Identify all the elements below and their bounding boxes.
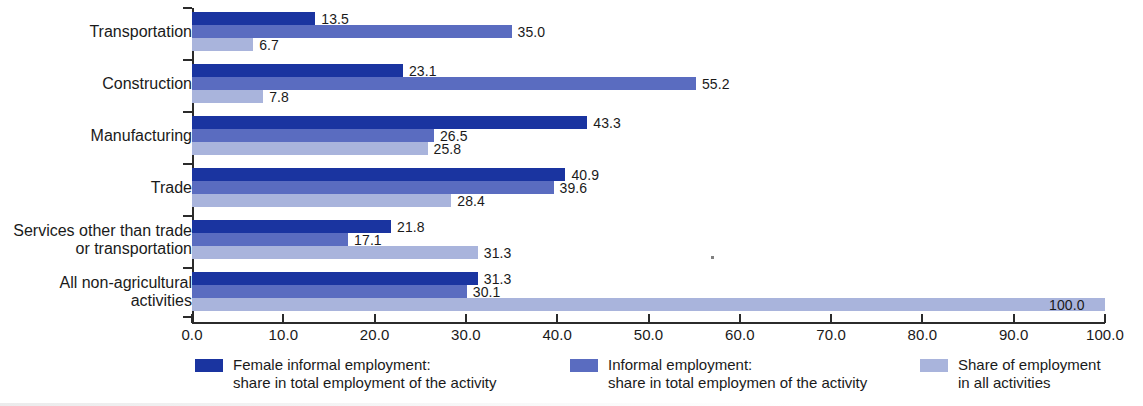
x-axis-tick [556,314,558,323]
bar-value-label: 23.1 [409,63,437,79]
x-axis-tick [465,314,467,323]
bar [192,64,403,77]
legend-swatch [195,359,223,372]
bar [192,181,554,194]
chart-container: 0.010.020.030.040.050.060.070.080.090.01… [0,0,1143,406]
bar [192,116,587,129]
x-axis-tick-label: 20.0 [360,326,390,343]
bar-value-label: 21.8 [397,219,425,235]
bar-value-label: 28.4 [457,193,485,209]
y-axis-tick [183,111,192,113]
x-axis-tick [374,314,376,323]
legend-label: Share of employment in all activities [958,356,1101,392]
x-axis-tick-label: 80.0 [908,326,938,343]
category-label: Construction [102,75,192,93]
bar [192,298,1105,311]
x-axis-tick [282,314,284,323]
y-axis-tick [183,267,192,269]
bar [192,25,512,38]
category-label: All non-agricultural activities [59,274,192,310]
plot-area: 0.010.020.030.040.050.060.070.080.090.01… [0,0,1143,406]
bar [192,246,478,259]
x-axis-tick [1013,314,1015,323]
chart-legend: Female informal employment: share in tot… [0,352,1143,406]
legend-item[interactable]: Informal employment: share in total empl… [570,356,867,392]
legend-swatch [570,359,598,372]
x-axis-tick-label: 70.0 [816,326,846,343]
bar [192,142,428,155]
bar-value-label: 7.8 [269,89,289,105]
x-axis-tick [648,314,650,323]
bar-value-label: 35.0 [518,24,546,40]
bar [192,38,253,51]
bar-value-label: 100.0 [1049,297,1085,313]
bar-value-label: 39.6 [560,180,588,196]
category-label: Transportation [89,23,192,41]
bar [192,233,348,246]
x-axis-tick-label: 40.0 [542,326,572,343]
legend-item[interactable]: Share of employment in all activities [920,356,1101,392]
x-axis-tick [1104,314,1106,323]
bar [192,12,315,25]
x-axis-tick-label: 100.0 [1086,326,1124,343]
bar-value-label: 43.3 [593,115,621,131]
x-axis-tick [739,314,741,323]
x-axis-tick-label: 50.0 [634,326,664,343]
bar-value-label: 6.7 [259,37,279,53]
category-label: Trade [151,179,192,197]
x-axis-tick-label: 10.0 [268,326,298,343]
bar [192,77,696,90]
x-axis-tick [191,314,193,323]
legend-label: Female informal employment: share in tot… [233,356,496,392]
y-axis-tick [183,163,192,165]
scan-artifact-dot [711,256,714,259]
bar-value-label: 25.8 [434,141,462,157]
bar [192,168,565,181]
bar-value-label: 55.2 [702,76,730,92]
bar-value-label: 30.1 [473,284,501,300]
x-axis-tick [830,314,832,323]
y-axis-tick [183,7,192,9]
x-axis-tick-label: 0.0 [181,326,202,343]
bar-value-label: 17.1 [354,232,382,248]
y-axis-tick [183,59,192,61]
legend-item[interactable]: Female informal employment: share in tot… [195,356,496,392]
bar [192,285,467,298]
bar [192,90,263,103]
bar [192,272,478,285]
bar [192,129,434,142]
category-label: Services other than trade or transportat… [13,222,192,258]
legend-label: Informal employment: share in total empl… [608,356,867,392]
x-axis-tick-label: 90.0 [999,326,1029,343]
legend-swatch [920,359,948,372]
x-axis-tick [921,314,923,323]
x-axis-tick-label: 60.0 [725,326,755,343]
category-label: Manufacturing [91,127,192,145]
bar-value-label: 13.5 [321,11,349,27]
bar-value-label: 31.3 [484,245,512,261]
y-axis-tick [183,215,192,217]
bar [192,194,451,207]
x-axis-tick-label: 30.0 [451,326,481,343]
